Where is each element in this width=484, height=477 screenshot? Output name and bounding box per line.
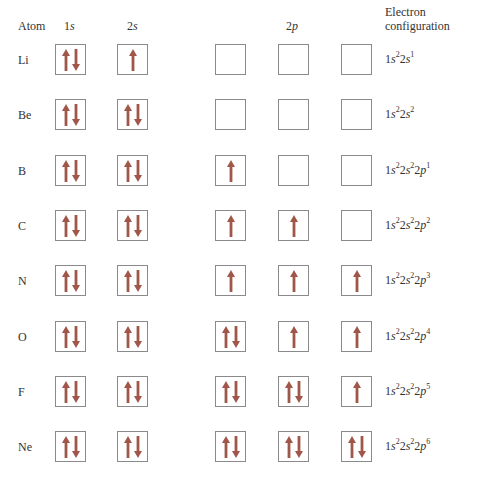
spin-up-arrow-icon bbox=[62, 381, 70, 403]
orbital-box-1s bbox=[55, 210, 86, 241]
spin-up-arrow-icon bbox=[124, 436, 132, 458]
orbital-box-1s bbox=[55, 44, 86, 75]
orbital-box-2s bbox=[117, 155, 148, 186]
electron-configuration: 1s22s22p3 bbox=[385, 273, 430, 288]
spin-up-arrow-icon bbox=[124, 270, 132, 292]
orbital-box-1s bbox=[55, 431, 86, 462]
orbital-box-2p bbox=[215, 210, 246, 241]
spin-up-arrow-icon bbox=[227, 160, 235, 182]
atom-label: Li bbox=[18, 53, 29, 68]
spin-down-arrow-icon bbox=[134, 326, 142, 348]
orbital-box-2s bbox=[117, 321, 148, 352]
electron-configuration: 1s22s22p2 bbox=[385, 218, 430, 233]
header-2p: 2p bbox=[286, 19, 298, 34]
header-2s: 2s bbox=[127, 19, 138, 34]
spin-up-arrow-icon bbox=[353, 326, 361, 348]
electron-configuration: 1s22s22p6 bbox=[385, 439, 430, 454]
spin-up-arrow-icon bbox=[227, 270, 235, 292]
spin-down-arrow-icon bbox=[72, 270, 80, 292]
spin-up-arrow-icon bbox=[285, 381, 293, 403]
spin-up-arrow-icon bbox=[353, 270, 361, 292]
spin-down-arrow-icon bbox=[72, 326, 80, 348]
spin-down-arrow-icon bbox=[134, 215, 142, 237]
spin-down-arrow-icon bbox=[134, 381, 142, 403]
spin-up-arrow-icon bbox=[62, 160, 70, 182]
spin-up-arrow-icon bbox=[62, 104, 70, 126]
orbital-box-2s bbox=[117, 210, 148, 241]
orbital-box-2p bbox=[341, 44, 372, 75]
orbital-box-2p bbox=[341, 376, 372, 407]
orbital-box-2p bbox=[341, 321, 372, 352]
atom-label: N bbox=[18, 274, 27, 289]
spin-up-arrow-icon bbox=[129, 49, 137, 71]
orbital-box-1s bbox=[55, 155, 86, 186]
orbital-box-1s bbox=[55, 265, 86, 296]
electron-configuration: 1s22s22p4 bbox=[385, 329, 430, 344]
orbital-box-2p bbox=[278, 376, 309, 407]
orbital-box-2s bbox=[117, 44, 148, 75]
spin-up-arrow-icon bbox=[290, 270, 298, 292]
spin-down-arrow-icon bbox=[134, 104, 142, 126]
orbital-box-1s bbox=[55, 376, 86, 407]
spin-up-arrow-icon bbox=[124, 326, 132, 348]
spin-down-arrow-icon bbox=[72, 49, 80, 71]
orbital-box-2p bbox=[215, 321, 246, 352]
header-config-line1: Electron bbox=[385, 5, 450, 19]
spin-up-arrow-icon bbox=[353, 381, 361, 403]
orbital-box-2p bbox=[215, 376, 246, 407]
electron-configuration: 1s22s1 bbox=[385, 52, 414, 67]
spin-down-arrow-icon bbox=[134, 436, 142, 458]
orbital-box-2p bbox=[278, 155, 309, 186]
spin-down-arrow-icon bbox=[72, 436, 80, 458]
orbital-box-2s bbox=[117, 376, 148, 407]
orbital-box-2p bbox=[278, 321, 309, 352]
electron-configuration: 1s22s2 bbox=[385, 107, 414, 122]
spin-up-arrow-icon bbox=[290, 215, 298, 237]
atom-label: B bbox=[18, 164, 26, 179]
atom-label: Be bbox=[18, 108, 31, 123]
spin-down-arrow-icon bbox=[358, 436, 366, 458]
orbital-box-2p bbox=[341, 99, 372, 130]
orbital-box-2p bbox=[278, 210, 309, 241]
orbital-box-2p bbox=[341, 431, 372, 462]
spin-up-arrow-icon bbox=[62, 49, 70, 71]
orbital-box-2p bbox=[278, 44, 309, 75]
header-1s: 1s bbox=[64, 19, 75, 34]
atom-label: O bbox=[18, 330, 27, 345]
spin-up-arrow-icon bbox=[62, 270, 70, 292]
spin-down-arrow-icon bbox=[232, 381, 240, 403]
spin-up-arrow-icon bbox=[62, 326, 70, 348]
header-atom: Atom bbox=[18, 19, 45, 34]
orbital-box-1s bbox=[55, 99, 86, 130]
header-1s-text: 1s bbox=[64, 19, 75, 33]
spin-up-arrow-icon bbox=[222, 436, 230, 458]
orbital-box-1s bbox=[55, 321, 86, 352]
spin-up-arrow-icon bbox=[290, 326, 298, 348]
header-2s-text: 2s bbox=[127, 19, 138, 33]
atom-label: F bbox=[18, 385, 25, 400]
spin-up-arrow-icon bbox=[124, 104, 132, 126]
spin-down-arrow-icon bbox=[134, 270, 142, 292]
orbital-box-2p bbox=[215, 99, 246, 130]
orbital-box-2p bbox=[341, 265, 372, 296]
spin-up-arrow-icon bbox=[62, 215, 70, 237]
spin-down-arrow-icon bbox=[72, 160, 80, 182]
spin-up-arrow-icon bbox=[285, 436, 293, 458]
spin-down-arrow-icon bbox=[72, 215, 80, 237]
spin-up-arrow-icon bbox=[222, 326, 230, 348]
orbital-box-2s bbox=[117, 431, 148, 462]
spin-up-arrow-icon bbox=[124, 215, 132, 237]
spin-down-arrow-icon bbox=[72, 104, 80, 126]
orbital-box-2p bbox=[278, 265, 309, 296]
spin-down-arrow-icon bbox=[134, 160, 142, 182]
orbital-box-2s bbox=[117, 99, 148, 130]
spin-down-arrow-icon bbox=[295, 381, 303, 403]
orbital-box-2p bbox=[215, 44, 246, 75]
orbital-box-2p bbox=[341, 155, 372, 186]
orbital-box-2p bbox=[215, 431, 246, 462]
spin-down-arrow-icon bbox=[295, 436, 303, 458]
orbital-box-2p bbox=[341, 210, 372, 241]
header-2p-text: 2p bbox=[286, 19, 298, 33]
orbital-box-2s bbox=[117, 265, 148, 296]
orbital-box-2p bbox=[278, 99, 309, 130]
